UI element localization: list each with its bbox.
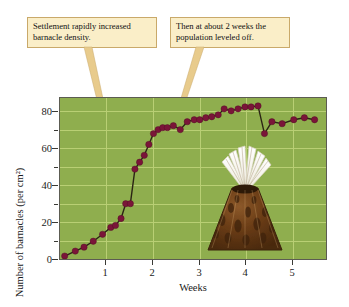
y-tick-mark bbox=[52, 185, 58, 186]
x-axis: 1 2 3 4 5 bbox=[59, 260, 327, 282]
x-tick-label: 4 bbox=[242, 268, 247, 279]
y-tick-label: 60 bbox=[42, 144, 53, 155]
x-axis-label: Weeks bbox=[59, 282, 327, 293]
y-tick-mark bbox=[52, 148, 58, 149]
y-tick-mark-minor bbox=[54, 241, 58, 242]
y-tick-mark bbox=[52, 222, 58, 223]
data-series-barnacle-density bbox=[60, 98, 326, 259]
y-tick-label: 0 bbox=[47, 255, 52, 266]
callout-leveled-off: Then at about 2 weeks the population lev… bbox=[170, 17, 290, 48]
y-axis-label: Number of barnacles (per cm²) bbox=[14, 158, 25, 307]
x-tick-label: 5 bbox=[289, 268, 294, 279]
callout-settlement: Settlement rapidly increased barnacle de… bbox=[27, 17, 157, 48]
x-tick-label: 1 bbox=[102, 268, 107, 279]
y-tick-label: 80 bbox=[42, 107, 53, 118]
y-axis: 0 20 40 60 80 Number of barnacles (per c… bbox=[0, 97, 52, 260]
plot-area bbox=[59, 97, 327, 260]
x-tick-mark bbox=[292, 260, 293, 265]
x-tick-mark bbox=[245, 260, 246, 265]
x-tick-mark bbox=[152, 260, 153, 265]
y-tick-mark-minor bbox=[54, 167, 58, 168]
y-tick-mark-minor bbox=[54, 130, 58, 131]
x-tick-mark bbox=[105, 260, 106, 265]
x-tick-label: 2 bbox=[149, 268, 154, 279]
x-tick-mark bbox=[199, 260, 200, 265]
y-tick-mark-minor bbox=[54, 204, 58, 205]
figure-barnacle-population: Settlement rapidly increased barnacle de… bbox=[0, 0, 349, 307]
y-tick-label: 20 bbox=[42, 218, 53, 229]
y-tick-label: 40 bbox=[42, 181, 53, 192]
x-tick-label: 3 bbox=[196, 268, 201, 279]
y-tick-mark bbox=[52, 259, 58, 260]
y-tick-mark bbox=[52, 111, 58, 112]
